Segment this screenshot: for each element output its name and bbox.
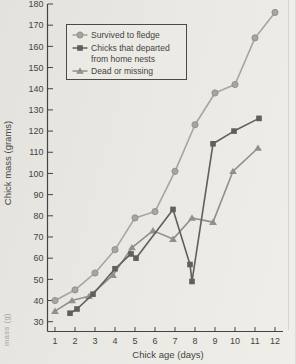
y-tick-label: 100 xyxy=(28,169,43,179)
circle-marker-icon xyxy=(212,90,218,96)
circle-marker-icon xyxy=(92,270,98,276)
square-marker-icon xyxy=(187,262,193,268)
y-tick-label: 130 xyxy=(28,105,43,115)
page-edge xyxy=(289,0,296,364)
series-dead-or-missing xyxy=(51,144,262,313)
y-tick-label: 90 xyxy=(33,190,43,200)
square-marker-icon xyxy=(90,291,96,297)
circle-marker-icon xyxy=(172,168,178,174)
y-tick-label: 50 xyxy=(33,275,43,285)
y-tick-label: 60 xyxy=(33,253,43,263)
x-axis-title: Chick age (days) xyxy=(132,349,203,360)
square-marker-icon xyxy=(128,251,134,257)
circle-marker-icon xyxy=(272,9,278,15)
square-marker-icon xyxy=(170,207,176,213)
square-marker-icon xyxy=(256,116,262,122)
circle-marker-icon xyxy=(72,287,78,293)
x-tick-label: 10 xyxy=(230,336,240,346)
series-line-chicks-that-departed-from-home-nests xyxy=(70,118,259,313)
legend: Survived to fledgeChicks that departedfr… xyxy=(67,25,187,80)
triangle-marker-icon xyxy=(254,144,262,150)
x-tick-label: 11 xyxy=(250,336,259,346)
y-tick-label: 120 xyxy=(28,126,43,136)
x-tick-label: 2 xyxy=(72,336,77,346)
square-marker-icon xyxy=(74,306,80,312)
x-tick-label: 1 xyxy=(52,336,57,346)
x-tick-label: 9 xyxy=(212,336,217,346)
x-tick-label: 12 xyxy=(270,336,280,346)
triangle-marker-icon xyxy=(188,214,196,220)
y-axis-title: Chick mass (grams) xyxy=(2,121,13,205)
x-tick-label: 6 xyxy=(152,336,157,346)
square-marker-icon xyxy=(133,255,139,261)
square-marker-icon xyxy=(189,279,195,285)
legend-label: Survived to fledge xyxy=(91,30,160,40)
clipped-margin-text: mass (g) xyxy=(2,313,11,346)
series-line-dead-or-missing xyxy=(55,148,258,311)
square-marker-icon xyxy=(112,266,118,272)
y-tick-label: 170 xyxy=(28,20,43,30)
y-tick-label: 140 xyxy=(28,84,43,94)
legend-label: Chicks that departed xyxy=(91,43,170,53)
chick-mass-chart: 3040506070809010011012013014015016017018… xyxy=(0,0,295,364)
y-tick-label: 110 xyxy=(29,147,43,157)
y-tick-label: 70 xyxy=(33,232,43,242)
x-tick-label: 4 xyxy=(112,336,117,346)
square-marker-icon xyxy=(210,141,216,147)
x-tick-label: 5 xyxy=(132,336,137,346)
scanned-figure-page: 3040506070809010011012013014015016017018… xyxy=(0,0,295,364)
y-tick-label: 30 xyxy=(33,317,43,327)
circle-marker-icon xyxy=(232,81,238,87)
circle-marker-icon xyxy=(252,35,258,41)
series-chicks-that-departed-from-home-nests xyxy=(67,116,262,316)
legend-label: Dead or missing xyxy=(91,66,153,76)
circle-marker-icon xyxy=(112,247,118,253)
x-tick-label: 7 xyxy=(172,336,177,346)
y-tick-label: 180 xyxy=(28,0,43,9)
y-tick-label: 160 xyxy=(28,42,43,52)
circle-marker-icon xyxy=(192,122,198,128)
square-marker-icon xyxy=(231,128,237,134)
circle-marker-icon xyxy=(132,215,138,221)
circle-marker-icon xyxy=(77,32,83,38)
x-tick-label: 8 xyxy=(192,336,197,346)
square-marker-icon xyxy=(77,45,83,51)
y-tick-label: 80 xyxy=(33,211,43,221)
circle-marker-icon xyxy=(152,208,158,214)
circle-marker-icon xyxy=(52,297,58,303)
y-tick-label: 40 xyxy=(33,296,43,306)
square-marker-icon xyxy=(67,310,73,316)
y-tick-label: 150 xyxy=(28,63,43,73)
legend-label: from home nests xyxy=(91,54,155,64)
x-tick-label: 3 xyxy=(92,336,97,346)
